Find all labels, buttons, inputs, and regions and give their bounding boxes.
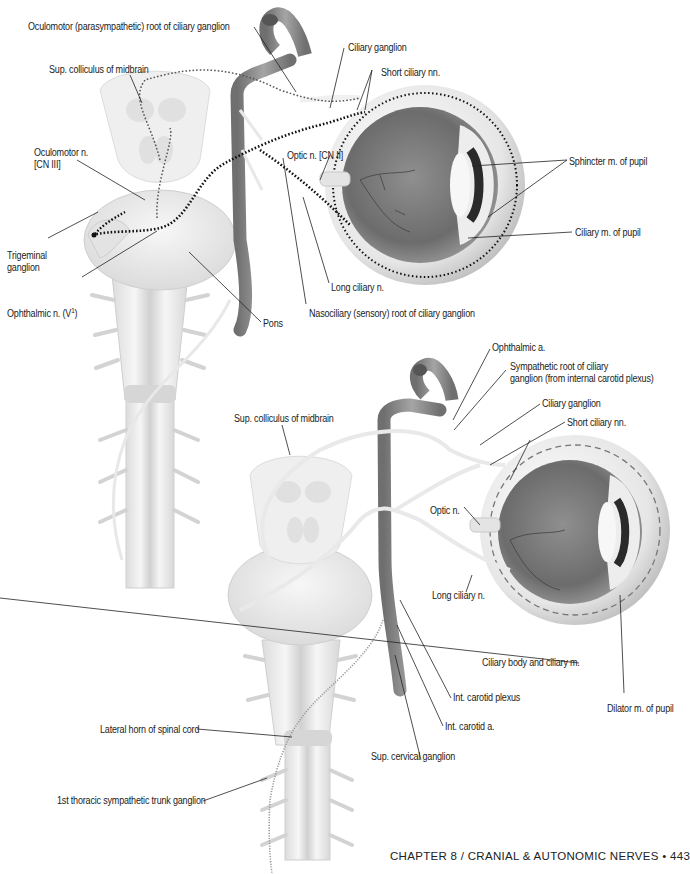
label-trigeminal-line1: Trigeminal <box>7 250 47 261</box>
label-ciliary-body: Ciliary body and ciliary m. <box>482 657 580 668</box>
top-spinal-cord <box>92 275 230 588</box>
ophthalmic-n-close: ) <box>74 308 77 319</box>
label-ciliary-m: Ciliary m. of pupil <box>575 227 641 238</box>
label-int-carotid-a: Int. carotid a. <box>445 721 494 732</box>
label-oculomotor-root: Oculomotor (parasympathetic) root of cil… <box>28 21 230 32</box>
label-nasociliary-root: Nasociliary (sensory) root of ciliary ga… <box>309 308 475 319</box>
label-short-ciliary-bottom: Short ciliary nn. <box>567 417 626 428</box>
label-long-ciliary-top: Long ciliary n. <box>331 282 384 293</box>
label-first-thoracic: 1st thoracic sympathetic trunk ganglion <box>57 795 206 806</box>
label-sphincter: Sphincter m. of pupil <box>569 156 647 167</box>
label-sup-cervical: Sup. cervical ganglion <box>371 751 455 762</box>
label-optic-n-bottom: Optic n. <box>430 505 460 516</box>
label-pons: Pons <box>263 318 283 329</box>
label-int-carotid-plexus: Int. carotid plexus <box>453 692 520 703</box>
label-sup-colliculus-top: Sup. colliculus of midbrain <box>49 64 149 75</box>
top-optic-nerve <box>320 172 350 186</box>
label-ophthalmic-n: Ophthalmic n. (V1) <box>7 305 77 319</box>
ophthalmic-n-text: Ophthalmic n. (V <box>7 308 71 319</box>
label-optic-n-top: Optic n. [CN II] <box>287 150 343 161</box>
label-ciliary-ganglion-bottom: Ciliary ganglion <box>542 398 601 409</box>
label-sup-colliculus-bottom: Sup. colliculus of midbrain <box>234 413 334 424</box>
label-sympathetic-root-line1: Sympathetic root of ciliary <box>510 361 608 372</box>
top-carotid-artery <box>237 14 305 330</box>
bottom-carotid-artery <box>384 364 452 690</box>
label-dilator: Dilator m. of pupil <box>607 703 674 714</box>
bottom-optic-nerve <box>470 518 500 532</box>
label-sympathetic-root-line2: ganglion (from internal carotid plexus) <box>510 373 654 384</box>
label-oculomotor-n-line1: Oculomotor n. <box>34 147 88 158</box>
label-long-ciliary-bottom: Long ciliary n. <box>432 590 485 601</box>
bottom-spinal-cord <box>245 620 383 874</box>
bottom-eyeball <box>480 435 670 625</box>
bottom-figure <box>228 364 670 874</box>
label-short-ciliary-top: Short ciliary nn. <box>381 67 440 78</box>
page-footer: CHAPTER 8 / CRANIAL & AUTONOMIC NERVES •… <box>390 850 690 862</box>
label-ophthalmic-a: Ophthalmic a. <box>492 342 545 353</box>
label-lateral-horn: Lateral horn of spinal cord <box>100 724 199 735</box>
label-ciliary-ganglion-top: Ciliary ganglion <box>348 42 407 53</box>
label-trigeminal-line2: ganglion <box>7 262 40 273</box>
label-oculomotor-n-line2: [CN III] <box>34 159 61 170</box>
top-midbrain <box>100 71 210 182</box>
